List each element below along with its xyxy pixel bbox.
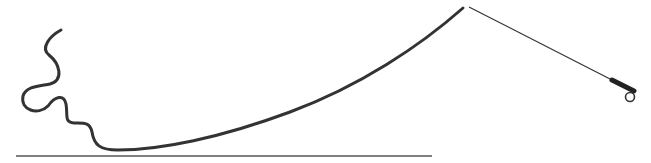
fly-rod <box>469 7 612 80</box>
rod-handle <box>612 80 634 91</box>
reel <box>626 93 635 102</box>
casting-diagram <box>0 0 651 163</box>
fly-line <box>23 8 463 150</box>
